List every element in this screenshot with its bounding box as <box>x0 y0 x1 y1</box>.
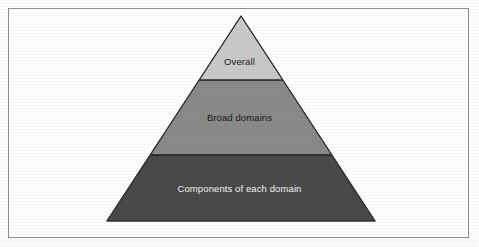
pyramid-tier-components-of-each-domain <box>107 155 375 221</box>
pyramid-tier-broad-domains <box>150 80 332 155</box>
pyramid-tier-overall <box>199 16 283 80</box>
pyramid-diagram <box>0 0 479 247</box>
figure-canvas: Overall Broad domains Components of each… <box>0 0 479 247</box>
